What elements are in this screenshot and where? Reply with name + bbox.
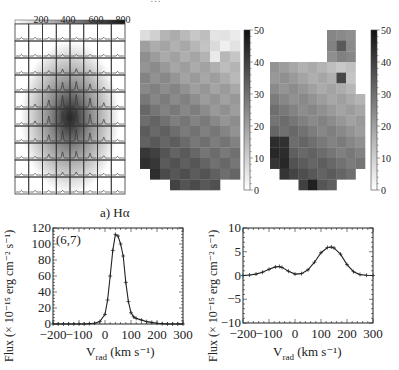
spectrum-right-xlabel: Vrad (km s⁻¹): [273, 344, 341, 362]
xlabel-subscript: rad: [282, 352, 294, 362]
svg-text:300: 300: [363, 326, 383, 341]
xlabel-main: V: [273, 344, 282, 359]
xlabel-units: (km s⁻¹): [294, 344, 342, 359]
svg-text:5: 5: [235, 244, 242, 259]
svg-text:−10: −10: [221, 315, 241, 330]
spectrum-right-plot: −200−1000100200300−10−50510: [0, 0, 399, 370]
svg-text:200: 200: [337, 326, 357, 341]
svg-text:0: 0: [292, 326, 299, 341]
svg-text:10: 10: [228, 220, 241, 235]
svg-text:−100: −100: [256, 326, 283, 341]
svg-text:−5: −5: [227, 291, 241, 306]
svg-text:0: 0: [235, 268, 242, 283]
svg-text:100: 100: [311, 326, 331, 341]
spectrum-right-ylabel: Flux (× 10⁻¹⁵ erg cm⁻² s⁻¹): [206, 230, 221, 362]
